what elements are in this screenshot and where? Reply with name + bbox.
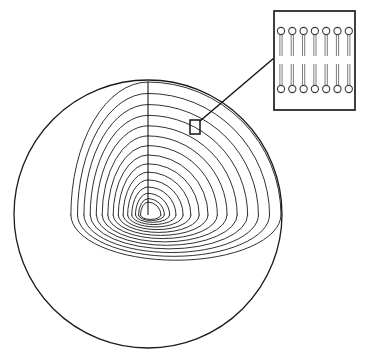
lipid-head-lower [334,85,341,92]
callout-group [190,58,274,134]
lamella-arc-left [128,180,148,215]
lamella-arc-right [148,199,164,215]
lipid-head-upper [311,27,318,34]
lamella-arc-right [148,202,161,215]
lamella-arc-right [148,193,170,215]
lipid-head-upper [300,27,307,34]
lamella-arc-right [148,126,237,215]
lipid-head-upper [289,27,296,34]
lipid-head-upper [323,27,330,34]
lamella-arc-right [148,115,248,215]
lamella-arc-floor [140,215,161,219]
lipid-head-upper [334,27,341,34]
inset-frame [274,11,355,110]
lipid-head-lower [323,85,330,92]
lamella-arc-right [148,164,199,215]
callout-leader-line [200,58,274,121]
lipid-head-lower [277,85,284,92]
lipid-head-upper [277,27,284,34]
lipid-head-lower [345,85,352,92]
lamellae-group [71,82,281,260]
lipid-head-lower [300,85,307,92]
lipid-head-upper [345,27,352,34]
lamella-arc-left [77,93,148,215]
inset-group [274,11,355,110]
lamella-arc-right [148,180,183,215]
lamella-arc-left [138,199,148,215]
lamella-arc-left [96,126,148,215]
lipid-head-lower [311,85,318,92]
lipid-head-lower [289,85,296,92]
lamella-arc-left [140,202,148,215]
lamella-arc-right [148,187,176,215]
lamella-arc-left [135,193,148,215]
lamella-arc-left [118,164,148,215]
figure-root: Diagram of a multilamellar vesicle shown… [0,0,367,364]
lamella-arc-right [148,93,270,215]
vesicle-diagram [0,0,367,364]
lamella-arc-left [132,187,148,215]
